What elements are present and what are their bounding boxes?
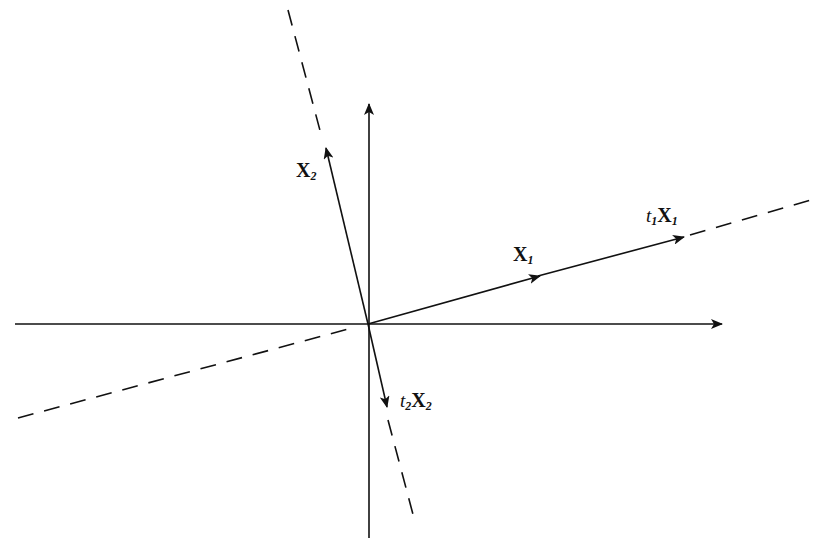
- label-t1x1: t1X1: [646, 205, 678, 227]
- x1-span-dashed-upper: [690, 198, 818, 235]
- vector-t1x1: [538, 237, 684, 276]
- vector-x2: [326, 148, 368, 324]
- x2-span-dashed-lower: [388, 420, 415, 522]
- label-t2x2: t2X2: [400, 390, 432, 412]
- vector-t2x2: [368, 324, 387, 407]
- x2-span-dashed-upper: [288, 10, 322, 138]
- x1-span-dashed-lower: [18, 328, 352, 418]
- vector-x1: [368, 276, 540, 324]
- label-x2: X2: [296, 160, 316, 182]
- label-x1: X1: [513, 244, 533, 266]
- vector-diagram: [0, 0, 828, 557]
